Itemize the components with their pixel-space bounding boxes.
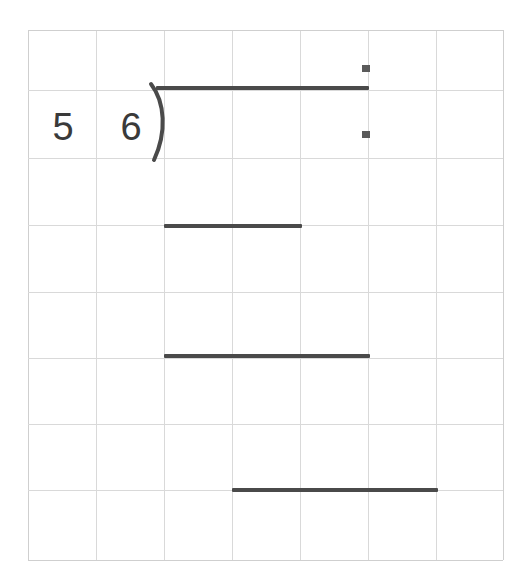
grid-line-horizontal-5	[28, 358, 503, 359]
grid-line-vertical-7	[503, 30, 504, 560]
grid-line-vertical-4	[300, 30, 301, 560]
subtraction-bar-2	[164, 354, 370, 358]
grid-line-horizontal-0	[28, 30, 503, 31]
vinculum-line	[156, 86, 369, 90]
grid-line-vertical-6	[436, 30, 437, 560]
grid-line-vertical-3	[232, 30, 233, 560]
subtraction-bar-3	[232, 488, 438, 492]
division-bracket-icon	[148, 82, 182, 162]
grid-line-horizontal-2	[28, 158, 503, 159]
divisor-digit: 5	[38, 108, 88, 146]
grid-line-horizontal-1	[28, 90, 503, 91]
grid-line-horizontal-4	[28, 292, 503, 293]
lower-square-mark	[362, 131, 370, 138]
grid-line-horizontal-6	[28, 424, 503, 425]
grid-line-vertical-0	[28, 30, 29, 560]
grid-line-vertical-1	[96, 30, 97, 560]
subtraction-bar-1	[164, 224, 302, 228]
grid-line-vertical-5	[368, 30, 369, 560]
long-division-worksheet: 5 6	[0, 0, 525, 586]
upper-square-mark	[362, 65, 370, 72]
grid-line-horizontal-8	[28, 560, 503, 561]
